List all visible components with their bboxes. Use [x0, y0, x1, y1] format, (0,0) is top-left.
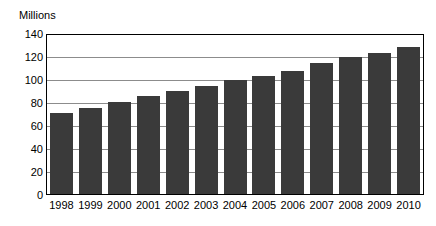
x-tick-label-2002: 2002	[163, 199, 192, 211]
bar-slot	[249, 35, 278, 194]
x-axis-tick-labels: 1998199920002001200220032004200520062007…	[47, 199, 423, 213]
bar-2000[interactable]	[108, 102, 131, 194]
bar-2008[interactable]	[339, 57, 362, 194]
x-tick-label-2010: 2010	[394, 199, 423, 211]
bar-2007[interactable]	[310, 63, 333, 194]
bar-2005[interactable]	[252, 76, 275, 194]
bar-2004[interactable]	[224, 80, 247, 194]
bar-2006[interactable]	[281, 71, 304, 194]
bars-group	[47, 35, 423, 194]
x-tick-label-2006: 2006	[278, 199, 307, 211]
x-tick-label-2005: 2005	[249, 199, 278, 211]
x-tick-label-2008: 2008	[336, 199, 365, 211]
bar-slot	[192, 35, 221, 194]
bar-1998[interactable]	[50, 113, 73, 194]
x-tick-label-2001: 2001	[134, 199, 163, 211]
bar-slot	[336, 35, 365, 194]
bar-slot	[134, 35, 163, 194]
x-tick-label-2007: 2007	[307, 199, 336, 211]
x-tick-label-1998: 1998	[47, 199, 76, 211]
bar-2002[interactable]	[166, 91, 189, 194]
y-axis-unit-label: Millions	[19, 9, 56, 21]
bar-2009[interactable]	[368, 53, 391, 194]
y-tick-label-140: 140	[3, 29, 43, 40]
x-tick-label-1999: 1999	[76, 199, 105, 211]
y-tick-label-100: 100	[3, 75, 43, 86]
bar-slot	[394, 35, 423, 194]
y-tick-label-80: 80	[3, 98, 43, 109]
y-tick-label-40: 40	[3, 144, 43, 155]
bar-slot	[221, 35, 250, 194]
y-tick-label-120: 120	[3, 52, 43, 63]
y-tick-label-60: 60	[3, 121, 43, 132]
bar-slot	[105, 35, 134, 194]
bar-2010[interactable]	[397, 47, 420, 194]
y-axis-tick-labels: 020406080100120140	[0, 34, 43, 195]
x-tick-label-2009: 2009	[365, 199, 394, 211]
bar-slot	[76, 35, 105, 194]
bar-1999[interactable]	[79, 108, 102, 194]
x-tick-label-2004: 2004	[221, 199, 250, 211]
bar-slot	[307, 35, 336, 194]
bar-slot	[365, 35, 394, 194]
y-tick-label-20: 20	[3, 167, 43, 178]
bar-slot	[47, 35, 76, 194]
bar-2001[interactable]	[137, 96, 160, 194]
bar-slot	[163, 35, 192, 194]
bar-2003[interactable]	[195, 86, 218, 194]
x-tick-label-2003: 2003	[192, 199, 221, 211]
x-tick-label-2000: 2000	[105, 199, 134, 211]
bar-slot	[278, 35, 307, 194]
y-tick-label-0: 0	[3, 190, 43, 201]
bar-chart: Millions 020406080100120140 199819992000…	[0, 0, 436, 226]
